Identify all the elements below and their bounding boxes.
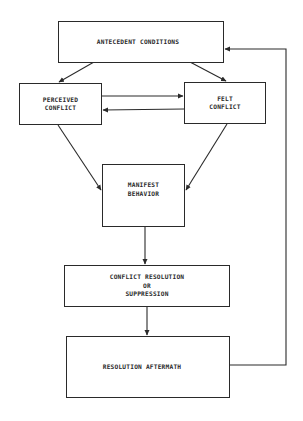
node-resolution-aftermath: RESOLUTION AFTERMATH (66, 336, 230, 398)
node-label: FELT CONFLICT (209, 95, 240, 112)
node-label: PERCEIVED CONFLICT (43, 96, 78, 113)
node-manifest-behavior: MANIFEST BEHAVIOR (102, 164, 185, 227)
edge-antecedent-felt (190, 62, 226, 81)
node-antecedent-conditions: ANTECEDENT CONDITIONS (58, 21, 224, 63)
edge-felt-manifest (186, 124, 227, 190)
node-label: RESOLUTION AFTERMATH (103, 363, 182, 372)
edge-perceived-manifest (58, 125, 101, 190)
node-conflict-resolution-or-suppression: CONFLICT RESOLUTION OR SUPPRESSION (64, 265, 230, 307)
node-perceived-conflict: PERCEIVED CONFLICT (19, 83, 102, 125)
conflict-process-diagram: ANTECEDENT CONDITIONS PERCEIVED CONFLICT… (0, 0, 303, 421)
edge-felt-perceived (103, 109, 184, 110)
node-label: CONFLICT RESOLUTION OR SUPPRESSION (110, 273, 185, 299)
edge-antecedent-perceived (59, 62, 94, 82)
node-felt-conflict: FELT CONFLICT (184, 82, 266, 124)
node-label: MANIFEST BEHAVIOR (128, 181, 159, 198)
node-label: ANTECEDENT CONDITIONS (97, 38, 179, 47)
